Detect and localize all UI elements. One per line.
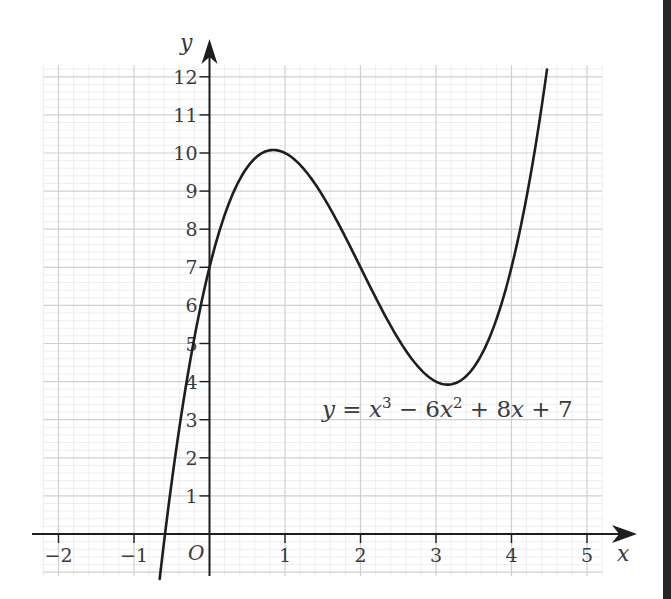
equation-label: y = x3 − 6x2 + 8x + 7 bbox=[321, 394, 573, 422]
grid-minor-lines bbox=[43, 65, 602, 576]
y-axis-label: y bbox=[179, 30, 193, 55]
eq-equals: = bbox=[335, 396, 369, 422]
y-tick-label: 12 bbox=[173, 66, 197, 88]
cubic-curve bbox=[160, 70, 547, 579]
x-tick-label: −1 bbox=[120, 544, 148, 566]
cubic-graph: −2−112345123456789101112 y x O y = x3 − … bbox=[0, 0, 671, 599]
chart-figure: −2−112345123456789101112 y x O y = x3 − … bbox=[0, 0, 671, 599]
x-axis-label: x bbox=[617, 541, 630, 566]
y-tick-label: 7 bbox=[185, 256, 197, 278]
x-tick-label: 3 bbox=[430, 544, 442, 566]
y-tick-label: 9 bbox=[185, 180, 197, 202]
y-tick-label: 2 bbox=[185, 447, 197, 469]
eq-plus-7: + 7 bbox=[524, 396, 573, 422]
y-tick-label: 3 bbox=[185, 409, 197, 431]
eq-x-linear: x bbox=[511, 396, 524, 422]
origin-label: O bbox=[188, 541, 204, 565]
x-tick-label: 4 bbox=[505, 544, 517, 566]
x-tick-label: 1 bbox=[279, 544, 291, 566]
eq-y: y bbox=[321, 396, 336, 422]
y-tick-label: 10 bbox=[173, 142, 197, 164]
y-tick-label: 6 bbox=[185, 294, 197, 316]
x-tick-label: −2 bbox=[44, 544, 72, 566]
x-tick-label: 5 bbox=[581, 544, 593, 566]
y-tick-label: 1 bbox=[185, 485, 197, 507]
eq-exponent-3: 3 bbox=[382, 394, 392, 412]
y-tick-label: 11 bbox=[173, 104, 197, 126]
eq-exponent-2: 2 bbox=[453, 394, 463, 412]
page-edge-shadow bbox=[663, 0, 671, 599]
eq-plus-8: + 8 bbox=[463, 396, 512, 422]
eq-x-squared-base: x bbox=[440, 396, 453, 422]
eq-minus-6: − 6 bbox=[391, 396, 440, 422]
y-tick-label: 8 bbox=[185, 218, 197, 240]
eq-x-cubed-base: x bbox=[369, 396, 382, 422]
axis-ticks: −2−112345123456789101112 bbox=[44, 66, 593, 566]
x-tick-label: 2 bbox=[354, 544, 366, 566]
